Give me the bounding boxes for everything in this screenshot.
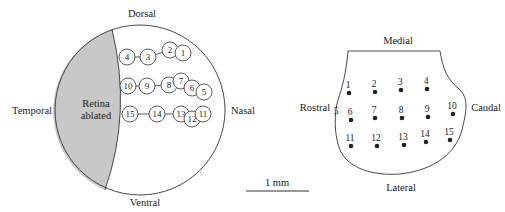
scale-bar-label: 1 mm	[265, 177, 289, 188]
site-dot	[451, 112, 456, 117]
site-dot	[448, 138, 453, 143]
label-retina-ablated-2: ablated	[81, 110, 112, 121]
site-dot	[402, 143, 407, 148]
site-number: 2	[372, 79, 377, 89]
tectum-sites: 12346789101112131415	[345, 76, 457, 148]
retina-diagram: 432110987651514131211 Dorsal Ventral Tem…	[12, 8, 255, 208]
label-medial: Medial	[383, 35, 413, 46]
label-nasal: Nasal	[231, 105, 255, 116]
site-number: 12	[371, 133, 381, 143]
retina-site-10: 10	[120, 78, 136, 94]
site-dot	[349, 118, 354, 123]
site-number: 5	[202, 87, 207, 97]
site-number: 1	[181, 48, 186, 58]
site-dot	[400, 116, 405, 121]
tectum-site-6: 6	[348, 107, 354, 122]
site-number: 3	[146, 52, 151, 62]
site-number: 15	[444, 127, 454, 137]
label-retina-ablated-1: Retina	[82, 98, 110, 109]
site-number: 7	[372, 105, 377, 115]
label-lateral: Lateral	[386, 182, 416, 193]
tectum-site-10: 10	[447, 101, 457, 116]
retina-site-5: 5	[196, 84, 212, 100]
site-dot	[426, 115, 431, 120]
site-number: 3	[398, 77, 403, 87]
retina-site-3: 3	[140, 49, 156, 65]
site-number: 15	[126, 109, 136, 119]
site-dot	[375, 144, 380, 149]
site-number: 6	[190, 83, 195, 93]
site-number: 11	[199, 109, 208, 119]
site-number: 1	[346, 80, 351, 90]
site-number: 11	[345, 133, 354, 143]
site-dot	[349, 144, 354, 149]
site-number: 8	[167, 80, 172, 90]
site-dot	[373, 116, 378, 121]
tectum-diagram: 12346789101112131415 5 Medial Lateral Ro…	[300, 35, 501, 193]
tectum-site-12: 12	[371, 133, 381, 148]
retina-site-1: 1	[175, 45, 191, 61]
retina-site-4: 4	[119, 49, 135, 65]
tectum-site-14: 14	[420, 129, 430, 144]
label-temporal: Temporal	[12, 105, 52, 116]
tectum-site-13: 13	[398, 132, 408, 147]
site-dot	[399, 88, 404, 93]
tectum-site-7: 7	[372, 105, 378, 120]
retina-site-14: 14	[149, 106, 165, 122]
tectum-site-3: 3	[398, 77, 404, 92]
site-number: 10	[447, 101, 457, 111]
scale-bar: 1 mm	[246, 177, 309, 191]
site-number: 9	[425, 104, 430, 114]
label-rostral: Rostral	[300, 102, 330, 113]
label-ventral: Ventral	[130, 197, 160, 208]
tectum-site-15: 15	[444, 127, 454, 142]
retina-site-15: 15	[122, 106, 138, 122]
site-number: 2	[168, 45, 173, 55]
site-number: 8	[399, 105, 404, 115]
site-dot	[347, 91, 352, 96]
site-number: 4	[125, 52, 130, 62]
site-number: 7	[179, 76, 184, 86]
tectum-site-8: 8	[399, 105, 405, 120]
retina-site-9: 9	[139, 78, 155, 94]
site-number: 6	[348, 107, 353, 117]
site-number: 4	[424, 76, 429, 86]
site-dot	[425, 87, 430, 92]
site-number: 9	[145, 81, 150, 91]
site-dot	[424, 140, 429, 145]
site-number: 14	[420, 129, 430, 139]
site-number: 10	[124, 81, 134, 91]
tectum-site-11: 11	[345, 133, 354, 148]
tectum-site-4: 4	[424, 76, 430, 91]
label-dorsal: Dorsal	[128, 8, 156, 19]
site-number: 14	[153, 109, 163, 119]
tectum-edge-label-5: 5	[334, 106, 339, 116]
tectum-site-9: 9	[425, 104, 431, 119]
label-caudal: Caudal	[471, 102, 501, 113]
tectum-site-2: 2	[372, 79, 378, 94]
retina-site-11: 11	[195, 106, 211, 122]
site-number: 13	[398, 132, 408, 142]
tectum-site-1: 1	[346, 80, 352, 95]
figure-canvas: 432110987651514131211 Dorsal Ventral Tem…	[0, 0, 505, 212]
site-dot	[373, 90, 378, 95]
